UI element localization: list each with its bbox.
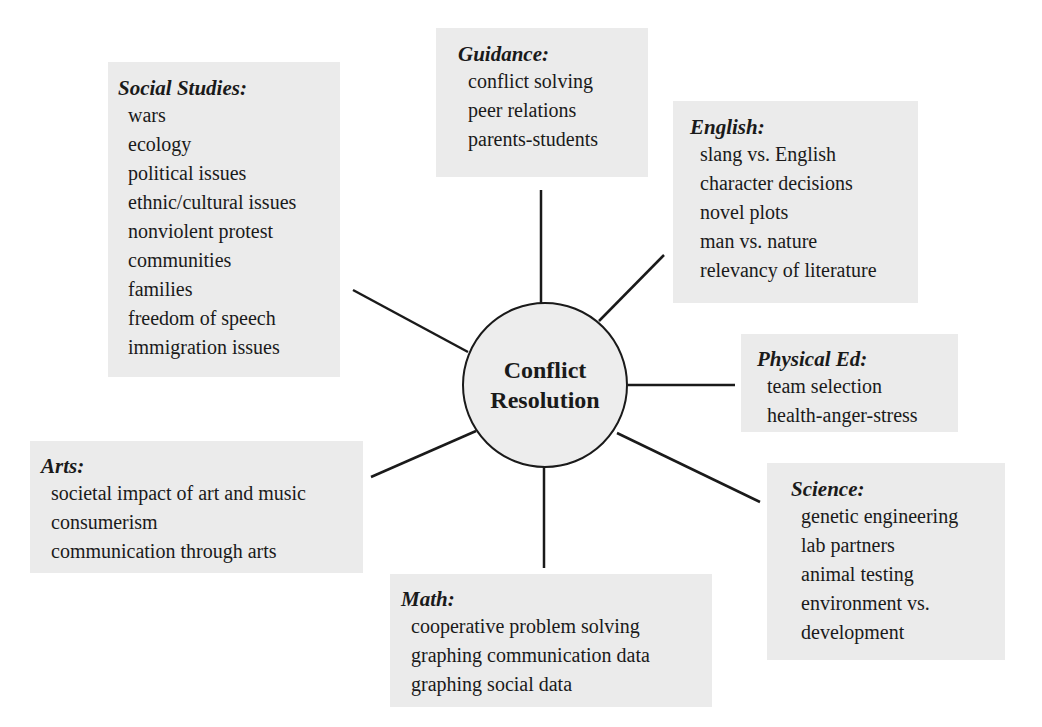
box-title-physical-ed: Physical Ed: (757, 347, 958, 372)
spoke-science (617, 433, 760, 502)
topic-item: parents-students (458, 125, 648, 154)
topic-list-math: cooperative problem solving graphing com… (401, 612, 712, 699)
box-title-math: Math: (401, 587, 712, 612)
topic-item: man vs. nature (690, 227, 918, 256)
box-title-guidance: Guidance: (458, 42, 648, 67)
topic-item: graphing communication data (401, 641, 712, 670)
box-guidance: Guidance: conflict solving peer relation… (436, 28, 648, 177)
topic-item: slang vs. English (690, 140, 918, 169)
hub-title-line-1: Conflict (504, 355, 587, 385)
spoke-english (599, 255, 664, 321)
spoke-social-studies (353, 290, 468, 352)
box-science: Science: genetic engineering lab partner… (767, 463, 1005, 660)
box-english: English: slang vs. English character dec… (673, 101, 918, 303)
topic-item: ecology (118, 130, 340, 159)
topic-item: wars (118, 101, 340, 130)
topic-item: health-anger-stress (757, 401, 958, 430)
topic-item: character decisions (690, 169, 918, 198)
topic-item: lab partners (791, 531, 1005, 560)
topic-item: immigration issues (118, 333, 340, 362)
box-math: Math: cooperative problem solving graphi… (390, 574, 712, 707)
topic-list-guidance: conflict solving peer relations parents-… (458, 67, 648, 154)
topic-item: relevancy of literature (690, 256, 918, 285)
topic-item: genetic engineering (791, 502, 1005, 531)
topic-item: conflict solving (458, 67, 648, 96)
box-social-studies: Social Studies: wars ecology political i… (108, 62, 340, 377)
central-hub-conflict-resolution: Conflict Resolution (462, 302, 628, 468)
topic-item: cooperative problem solving (401, 612, 712, 641)
box-title-arts: Arts: (41, 454, 363, 479)
topic-item: political issues (118, 159, 340, 188)
topic-item: communication through arts (41, 537, 363, 566)
topic-list-english: slang vs. English character decisions no… (690, 140, 918, 285)
topic-list-physical-ed: team selection health-anger-stress (757, 372, 958, 430)
topic-item: freedom of speech (118, 304, 340, 333)
topic-item: environment vs. (791, 589, 1005, 618)
topic-item: animal testing (791, 560, 1005, 589)
topic-item: societal impact of art and music (41, 479, 363, 508)
topic-item: consumerism (41, 508, 363, 537)
topic-item: development (791, 618, 1005, 647)
topic-list-science: genetic engineering lab partners animal … (791, 502, 1005, 647)
spoke-arts (371, 431, 476, 477)
topic-item: nonviolent protest (118, 217, 340, 246)
box-arts: Arts: societal impact of art and music c… (30, 441, 363, 573)
topic-list-social-studies: wars ecology political issues ethnic/cul… (118, 101, 340, 362)
box-title-english: English: (690, 115, 918, 140)
box-title-social-studies: Social Studies: (118, 76, 340, 101)
topic-list-arts: societal impact of art and music consume… (41, 479, 363, 566)
topic-item: peer relations (458, 96, 648, 125)
topic-item: communities (118, 246, 340, 275)
box-title-science: Science: (791, 477, 1005, 502)
topic-item: graphing social data (401, 670, 712, 699)
topic-item: families (118, 275, 340, 304)
hub-title-line-2: Resolution (490, 385, 599, 415)
box-physical-ed: Physical Ed: team selection health-anger… (741, 334, 958, 432)
topic-item: ethnic/cultural issues (118, 188, 340, 217)
topic-item: novel plots (690, 198, 918, 227)
topic-item: team selection (757, 372, 958, 401)
